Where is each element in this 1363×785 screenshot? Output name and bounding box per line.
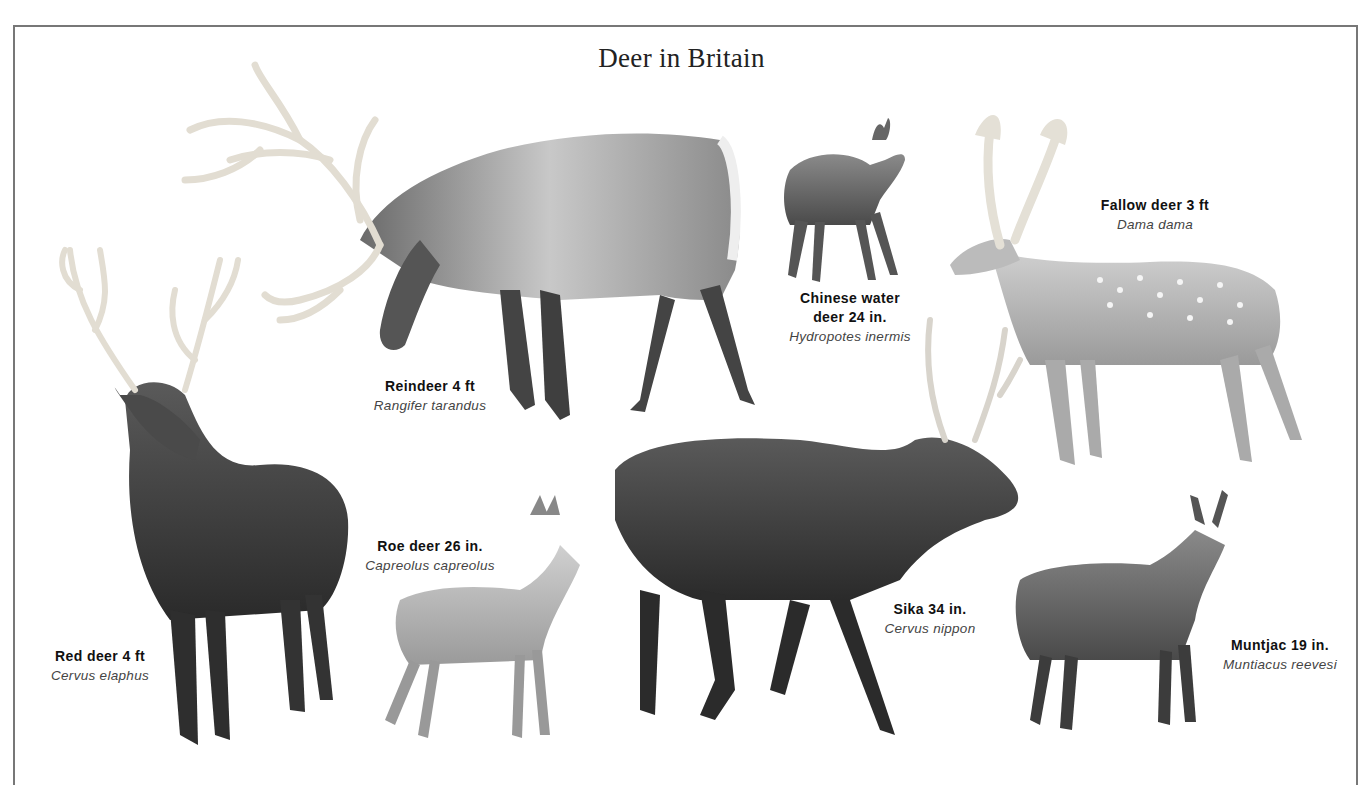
reindeer-latin-name: Rangifer tarandus	[330, 396, 530, 415]
chinese-water-deer-common-name-line2: deer 24 in.	[750, 308, 950, 327]
roe-deer-common-name: Roe deer 26 in.	[335, 537, 525, 556]
fallow-deer-latin-name: Dama dama	[1075, 215, 1235, 234]
sika-common-name: Sika 34 in.	[855, 600, 1005, 619]
chinese-water-deer-latin-name: Hydropotes inermis	[750, 327, 950, 346]
muntjac-common-name: Muntjac 19 in.	[1190, 636, 1363, 655]
fallow-deer-illustration	[950, 115, 1302, 465]
fallow-deer-label: Fallow deer 3 ft Dama dama	[1075, 196, 1235, 234]
fallow-deer-common-name: Fallow deer 3 ft	[1075, 196, 1235, 215]
muntjac-latin-name: Muntiacus reevesi	[1190, 655, 1363, 674]
roe-deer-latin-name: Capreolus capreolus	[335, 556, 525, 575]
sika-illustration	[615, 320, 1020, 735]
red-deer-label: Red deer 4 ft Cervus elaphus	[20, 647, 180, 685]
chinese-water-deer-illustration	[784, 118, 905, 282]
roe-deer-illustration	[385, 495, 580, 738]
reindeer-common-name: Reindeer 4 ft	[330, 377, 530, 396]
roe-deer-label: Roe deer 26 in. Capreolus capreolus	[335, 537, 525, 575]
sika-label: Sika 34 in. Cervus nippon	[855, 600, 1005, 638]
muntjac-illustration	[1016, 490, 1228, 730]
reindeer-label: Reindeer 4 ft Rangifer tarandus	[330, 377, 530, 415]
chinese-water-deer-label: Chinese water deer 24 in. Hydropotes ine…	[750, 289, 950, 346]
red-deer-common-name: Red deer 4 ft	[20, 647, 180, 666]
sika-latin-name: Cervus nippon	[855, 619, 1005, 638]
reindeer-illustration	[185, 65, 755, 420]
chinese-water-deer-common-name-line1: Chinese water	[750, 289, 950, 308]
red-deer-latin-name: Cervus elaphus	[20, 666, 180, 685]
muntjac-label: Muntjac 19 in. Muntiacus reevesi	[1190, 636, 1363, 674]
